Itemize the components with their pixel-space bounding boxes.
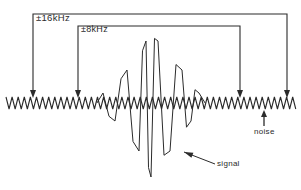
noise-arrow-head (261, 110, 267, 117)
inner-bracket-right-arrowhead (237, 90, 243, 98)
noise-label: noise (254, 127, 275, 136)
spectrum-plot-canvas (0, 0, 301, 190)
signal-noise-spectrum-figure: ±16kHz ±8kHz noise signal (0, 0, 301, 190)
outer-bracket-right-arrowhead (284, 90, 290, 98)
inner-bracket-left-arrowhead (75, 90, 81, 98)
signal-pointer-arrow (184, 152, 215, 164)
noise-waveform-trace (6, 97, 296, 109)
inner-bandwidth-label: ±8kHz (81, 24, 108, 34)
outer-bracket-left-arrowhead (30, 90, 36, 98)
signal-arrow-head (184, 152, 193, 158)
outer-bandwidth-label: ±16kHz (36, 12, 70, 23)
signal-label: signal (217, 159, 240, 168)
noise-pointer-arrow (261, 110, 267, 126)
